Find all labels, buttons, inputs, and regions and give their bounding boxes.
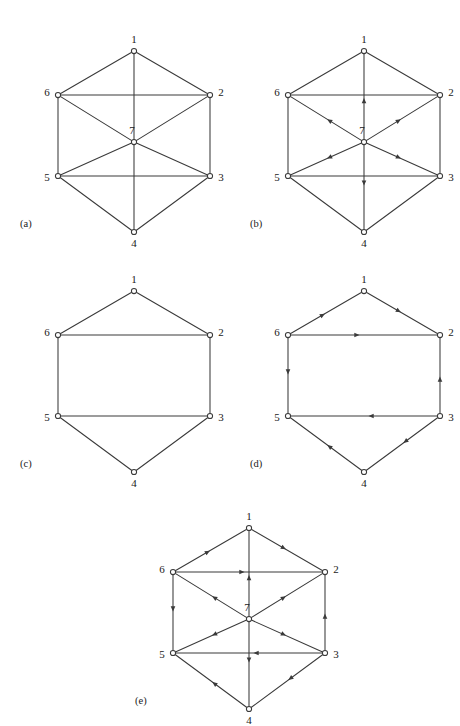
node-6[interactable]	[55, 92, 60, 97]
edge-6-1	[175, 529, 247, 570]
node-6[interactable]	[285, 332, 290, 337]
arrowhead-7-to-4	[247, 657, 252, 662]
panel-caption-a: (a)	[20, 218, 32, 229]
node-6[interactable]	[170, 569, 175, 574]
node-4[interactable]	[361, 469, 366, 474]
node-7[interactable]	[246, 616, 251, 621]
graph-panel-c: 123456	[32, 263, 232, 478]
node-label-3: 3	[218, 411, 224, 423]
node-label-7: 7	[129, 124, 135, 136]
node-1[interactable]	[246, 525, 251, 530]
node-label-1: 1	[361, 33, 367, 45]
node-7[interactable]	[361, 139, 366, 144]
node-group: 123456	[44, 273, 224, 489]
panel-caption-c: (c)	[20, 458, 32, 469]
node-5[interactable]	[55, 413, 60, 418]
edge-group	[286, 292, 443, 470]
node-label-1: 1	[246, 510, 252, 522]
edge-7-2	[366, 96, 438, 140]
node-group: 123456	[274, 273, 454, 489]
edge-4-5	[290, 418, 362, 471]
arrowhead-7-to-4	[362, 180, 367, 185]
edge-6-1	[290, 292, 362, 333]
node-6[interactable]	[55, 332, 60, 337]
edge-1-2	[366, 292, 438, 333]
edge-group	[58, 292, 210, 470]
node-3[interactable]	[437, 173, 442, 178]
node-1[interactable]	[131, 48, 136, 53]
graph-canvas-c: 123456	[32, 263, 232, 478]
node-2[interactable]	[437, 332, 442, 337]
edge-1-2	[136, 52, 208, 93]
node-4[interactable]	[131, 469, 136, 474]
edge-1-2	[366, 52, 438, 93]
edge-3-4	[366, 418, 438, 471]
node-label-5: 5	[44, 411, 50, 423]
node-1[interactable]	[361, 288, 366, 293]
node-5[interactable]	[170, 650, 175, 655]
graph-panel-d: 123456	[262, 263, 460, 478]
edge-3-4	[251, 655, 323, 708]
node-5[interactable]	[285, 173, 290, 178]
edge-7-6	[290, 96, 362, 140]
node-3[interactable]	[322, 650, 327, 655]
edge-6-1	[290, 52, 362, 93]
node-label-5: 5	[274, 171, 280, 183]
node-label-4: 4	[361, 237, 367, 249]
graph-canvas-b: 1234567	[262, 23, 460, 238]
graph-canvas-e: 1234567	[147, 500, 347, 715]
arrowhead-6-to-2	[354, 333, 359, 338]
edge-4-5	[175, 655, 247, 708]
edge-7-3	[136, 143, 207, 175]
node-label-2: 2	[218, 86, 224, 98]
edge-6-1	[60, 292, 132, 333]
node-2[interactable]	[322, 569, 327, 574]
node-label-2: 2	[448, 86, 454, 98]
node-4[interactable]	[246, 706, 251, 711]
node-1[interactable]	[361, 48, 366, 53]
edge-4-5	[290, 178, 362, 231]
node-label-3: 3	[218, 171, 224, 183]
node-3[interactable]	[437, 413, 442, 418]
edge-7-6	[60, 96, 132, 140]
arrowhead-3-to-4	[288, 675, 294, 680]
node-label-4: 4	[246, 714, 252, 726]
node-label-4: 4	[131, 237, 137, 249]
arrowhead-3-to-5	[253, 651, 258, 656]
edge-4-5	[60, 178, 132, 231]
edge-1-2	[136, 292, 208, 333]
node-2[interactable]	[437, 92, 442, 97]
node-2[interactable]	[207, 92, 212, 97]
node-5[interactable]	[285, 413, 290, 418]
edge-7-3	[366, 143, 437, 175]
node-label-7: 7	[359, 124, 365, 136]
node-3[interactable]	[207, 173, 212, 178]
node-label-2: 2	[333, 563, 339, 575]
node-4[interactable]	[361, 229, 366, 234]
node-label-6: 6	[274, 326, 280, 338]
node-label-2: 2	[218, 326, 224, 338]
node-label-6: 6	[44, 326, 50, 338]
node-3[interactable]	[207, 413, 212, 418]
edge-7-6	[175, 573, 247, 617]
panel-caption-e: (e)	[135, 695, 147, 706]
edge-6-1	[60, 52, 132, 93]
node-2[interactable]	[207, 332, 212, 337]
node-label-7: 7	[244, 601, 250, 613]
edge-7-5	[290, 143, 361, 175]
graph-panel-a: 1234567	[32, 23, 232, 238]
arrowhead-3-to-2	[438, 376, 443, 381]
node-label-5: 5	[274, 411, 280, 423]
node-label-2: 2	[448, 326, 454, 338]
node-label-4: 4	[131, 477, 137, 489]
arrowhead-7-to-1	[362, 98, 367, 103]
node-1[interactable]	[131, 288, 136, 293]
arrowhead-4-to-5	[212, 682, 218, 687]
figure-root: 1234567(a)1234567(b)123456(c)123456(d)12…	[0, 0, 460, 726]
edge-1-2	[251, 529, 323, 570]
node-5[interactable]	[55, 173, 60, 178]
node-7[interactable]	[131, 139, 136, 144]
node-6[interactable]	[285, 92, 290, 97]
node-4[interactable]	[131, 229, 136, 234]
node-label-6: 6	[159, 563, 165, 575]
